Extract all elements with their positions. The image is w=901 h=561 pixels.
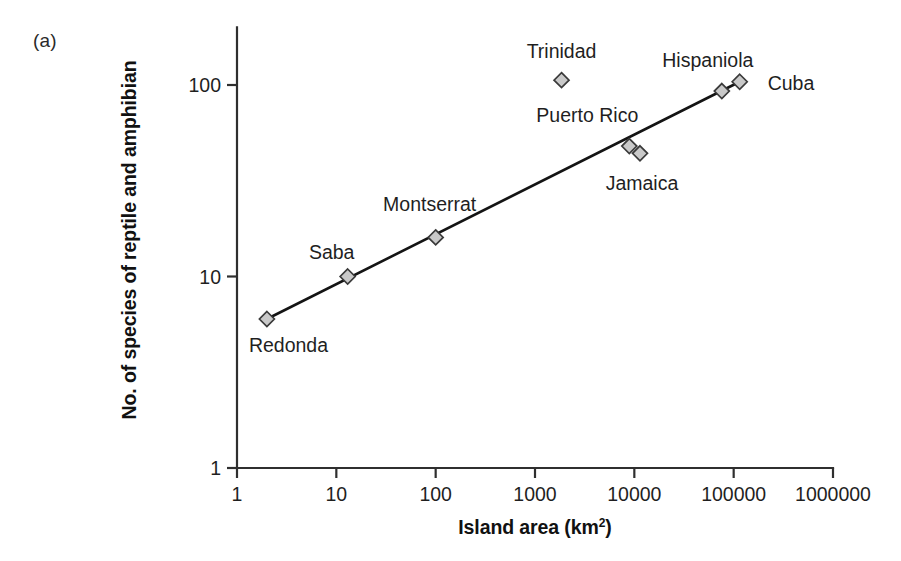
x-tick-label-10000: 10000 [607, 483, 661, 505]
y-tick-label-100: 100 [188, 74, 221, 96]
point-label-puerto-rico: Puerto Rico [536, 104, 638, 126]
plot-area: 1101001000100001000001000000110100 Redon… [0, 0, 901, 561]
x-tick-label-10: 10 [325, 483, 347, 505]
point-label-saba: Saba [309, 241, 355, 263]
x-tick-label-100: 100 [419, 483, 452, 505]
fit-line [267, 82, 740, 319]
y-tick-label-1: 1 [210, 457, 221, 479]
point-label-jamaica: Jamaica [606, 172, 679, 194]
x-tick-label-1: 1 [232, 483, 243, 505]
point-label-redonda: Redonda [249, 334, 328, 356]
x-tick-label-1000: 1000 [513, 483, 557, 505]
species-area-figure: (a) No. of species of reptile and amphib… [0, 0, 901, 561]
tick-labels: 1101001000100001000001000000110100 [188, 74, 871, 505]
marker-redonda [259, 311, 274, 326]
point-label-trinidad: Trinidad [527, 40, 597, 62]
x-tick-label-100000: 100000 [701, 483, 766, 505]
marker-cuba [732, 74, 747, 89]
point-label-cuba: Cuba [768, 72, 815, 94]
point-label-montserrat: Montserrat [383, 193, 477, 215]
marker-trinidad [554, 73, 569, 88]
point-label-hispaniola: Hispaniola [662, 49, 753, 71]
x-tick-label-1000000: 1000000 [795, 483, 871, 505]
y-tick-label-10: 10 [199, 266, 221, 288]
marker-hispaniola [714, 84, 729, 99]
regression-line [267, 82, 740, 319]
